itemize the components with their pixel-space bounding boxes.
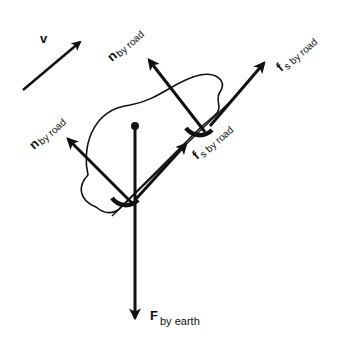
gravity-force-vector: F by earth <box>135 126 200 327</box>
velocity-label: v <box>40 31 48 46</box>
friction-force-front-vector: f s by road <box>210 32 319 126</box>
svg-text:s by road: s by road <box>281 36 319 72</box>
free-body-diagram: v F by earth n by road n by road f s by <box>0 0 340 345</box>
svg-text:by earth: by earth <box>160 315 200 327</box>
car-body-outline <box>81 74 222 212</box>
velocity-vector: v <box>23 31 80 90</box>
friction-force-rear-vector: f s by road <box>135 120 235 200</box>
svg-text:by road: by road <box>114 28 146 58</box>
svg-text:by road: by road <box>36 116 68 146</box>
normal-force-rear-vector: n by road <box>26 113 132 203</box>
svg-text:F: F <box>150 308 158 323</box>
